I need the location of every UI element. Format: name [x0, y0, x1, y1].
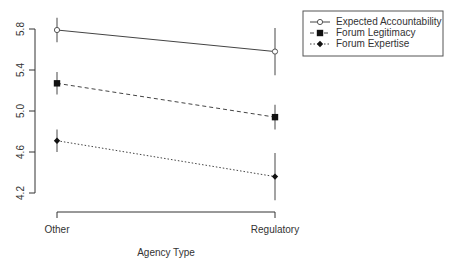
marker-open-circle-icon — [317, 19, 322, 24]
x-axis-title: Agency Type — [137, 247, 195, 258]
marker-filled-diamond-icon — [272, 173, 278, 179]
y-tick-label: 5.0 — [15, 104, 26, 118]
x-tick-label-other: Other — [44, 224, 70, 235]
legend-label-expected-accountability: Expected Accountability — [336, 16, 442, 27]
series-expected-accountability — [54, 18, 277, 75]
marker-open-circle-icon — [54, 27, 59, 32]
y-tick-label: 4.2 — [15, 186, 26, 200]
y-tick-labels: 4.24.65.05.45.8 — [15, 22, 26, 200]
legend-label-forum-legitimacy: Forum Legitimacy — [336, 27, 415, 38]
plot-series — [54, 18, 278, 200]
marker-filled-square-icon — [317, 30, 323, 36]
marker-filled-diamond-icon — [54, 138, 60, 144]
y-tick-label: 5.8 — [15, 22, 26, 36]
interaction-plot: 4.24.65.05.45.8 Other Regulatory Agency … — [0, 0, 450, 269]
series-forum-legitimacy — [54, 72, 278, 129]
x-axis — [57, 212, 275, 218]
legend: Expected Accountability Forum Legitimacy… — [303, 11, 443, 56]
y-tick-label: 5.4 — [15, 63, 26, 77]
y-axis — [29, 29, 35, 193]
x-tick-label-regulatory: Regulatory — [251, 224, 299, 235]
series-forum-expertise — [54, 129, 278, 200]
marker-open-circle-icon — [272, 49, 277, 54]
y-tick-label: 4.6 — [15, 145, 26, 159]
marker-filled-square-icon — [54, 80, 60, 86]
legend-label-forum-expertise: Forum Expertise — [336, 38, 410, 49]
marker-filled-square-icon — [272, 114, 278, 120]
